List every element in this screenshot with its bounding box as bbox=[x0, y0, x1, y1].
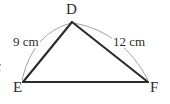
vertex-label-f: F bbox=[150, 80, 158, 95]
vertex-label-e: E bbox=[13, 80, 22, 95]
triangle-edge-df bbox=[72, 22, 148, 82]
geometry-diagram: D E F 9 cm 12 cm c bbox=[0, 0, 170, 104]
triangle-figure bbox=[0, 0, 170, 104]
triangle-edge-de bbox=[23, 22, 72, 82]
side-length-label-de: 9 cm bbox=[12, 35, 40, 48]
vertex-label-d: D bbox=[66, 2, 77, 17]
clipped-edge-glyph: c bbox=[0, 60, 1, 74]
side-length-label-df: 12 cm bbox=[112, 35, 146, 48]
